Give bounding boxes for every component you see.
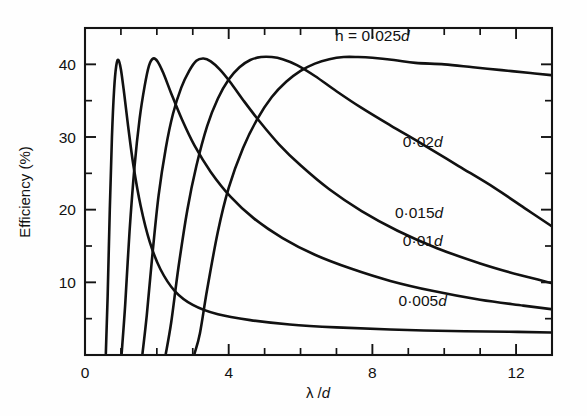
curve-label-value: 0·02 [403, 133, 434, 150]
x-tick-label: 8 [368, 364, 377, 381]
curve-label-value: 0·01 [403, 232, 434, 249]
curve-label-unit: d [401, 27, 411, 44]
x-tick-label: 12 [507, 364, 524, 381]
curve-label-3: 0·01d [403, 232, 444, 249]
x-axis-title-symbol: λ / [306, 384, 323, 401]
curve-label-unit: d [438, 292, 448, 309]
curve-label-unit: d [435, 204, 445, 221]
curve-label-2: 0·015d [395, 204, 445, 221]
figure-container: 0481210203040 h = 0·025d0·02d0·015d0·01d… [0, 0, 587, 416]
curve-label-1: 0·02d [403, 133, 444, 150]
y-tick-label: 20 [59, 201, 77, 218]
curve-label-value: 0·005 [399, 292, 439, 309]
x-tick-label: 0 [81, 364, 90, 381]
curve-paths [106, 57, 552, 354]
y-tick-label: 30 [59, 129, 77, 146]
curve-label-0: h = 0·025d [335, 27, 411, 44]
curve-label-unit: d [434, 232, 444, 249]
y-tick-label: 10 [59, 274, 77, 291]
curve-label-value: h = 0·025 [335, 27, 401, 44]
x-tick-label: 4 [224, 364, 233, 381]
curve-label-4: 0·005d [399, 292, 449, 309]
y-axis-title: Efficiency (%) [16, 146, 33, 237]
curve-labels-group: h = 0·025d0·02d0·015d0·01d0·005d [335, 27, 448, 309]
curves-group [106, 57, 552, 354]
curve-label-value: 0·015 [395, 204, 435, 221]
x-axis-title-unit: d [322, 384, 331, 401]
y-tick-label: 40 [59, 56, 77, 73]
efficiency-vs-lambda-chart: 0481210203040 h = 0·025d0·02d0·015d0·01d… [0, 0, 587, 416]
series-curve-3 [122, 58, 552, 353]
series-curve-0 [195, 57, 552, 354]
x-axis-title: λ /d [306, 384, 331, 401]
curve-label-unit: d [434, 133, 444, 150]
